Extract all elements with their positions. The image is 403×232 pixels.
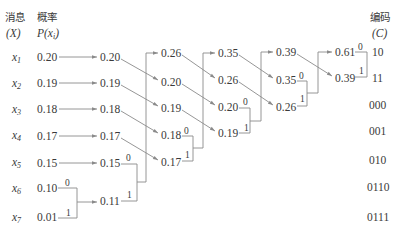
- branch-label-1: 1: [66, 208, 71, 218]
- prob-value: 0.35: [218, 47, 238, 59]
- code-value: 010: [369, 154, 387, 166]
- branch-label-0: 0: [65, 178, 70, 188]
- prob-value: 0.18: [100, 103, 120, 115]
- prob-value: 0.10: [37, 182, 57, 194]
- merge-arrow: [193, 53, 215, 148]
- prob-value: 0.20: [37, 51, 57, 63]
- merge-arrow: [137, 53, 158, 182]
- header-probability: 概率: [37, 11, 57, 23]
- merge-arrow: [307, 52, 332, 93]
- probability-column-1: 0.20 0.19 0.18 0.17 0.15 0.10 0.01: [37, 51, 57, 223]
- branch-label-1: 1: [185, 150, 190, 160]
- prob-value: 0.17: [37, 130, 57, 142]
- prob-value: 0.19: [37, 77, 57, 89]
- branch-label-1: 1: [359, 66, 364, 76]
- prob-value: 0.39: [276, 46, 296, 58]
- header-code: 编码: [370, 11, 390, 23]
- symbol-x7: x7: [11, 211, 22, 225]
- branch-label-1: 1: [127, 190, 132, 200]
- prob-value: 0.26: [218, 74, 238, 86]
- prob-value: 0.15: [37, 157, 57, 169]
- symbol-column: x1 x2 x3 x4 x5 x6 x7: [11, 51, 22, 225]
- symbol-x5: x5: [11, 156, 21, 170]
- arrow-line: [239, 55, 273, 78]
- arrow-line: [182, 55, 215, 78]
- prob-value: 0.19: [100, 77, 120, 89]
- header-message-var: (X): [6, 27, 21, 40]
- code-value: 0111: [367, 211, 389, 223]
- arrow-line: [121, 59, 158, 80]
- symbol-x1: x1: [11, 51, 21, 65]
- probability-column-6: 0.61 0.39: [335, 46, 355, 84]
- symbol-x2: x2: [11, 77, 21, 91]
- probability-column-4: 0.35 0.26 0.20 0.19: [218, 47, 238, 139]
- probability-column-3: 0.26 0.20 0.19 0.18 0.17: [161, 47, 181, 168]
- prob-value: 0.20: [161, 76, 181, 88]
- code-value: 001: [369, 125, 387, 137]
- code-value: 0110: [367, 181, 390, 193]
- prob-value: 0.19: [161, 102, 181, 114]
- branch-label-1: 1: [300, 94, 305, 104]
- probability-column-5: 0.39 0.35 0.26: [276, 46, 296, 113]
- code-value: 11: [372, 72, 383, 84]
- branch-label-0: 0: [126, 153, 131, 163]
- prob-value: 0.26: [276, 101, 296, 113]
- prob-value: 0.17: [100, 130, 120, 142]
- prob-value: 0.39: [335, 72, 355, 84]
- prob-value: 0.35: [276, 74, 296, 86]
- merge-arrow: [250, 52, 273, 121]
- branch-label-0: 0: [184, 126, 189, 136]
- code-value: 10: [372, 46, 384, 58]
- code-value: 000: [369, 99, 387, 111]
- huffman-coding-diagram: 消息 (X) 概率 P(xi) 编码 (C) x1 x2 x3 x4 x5 x6…: [0, 0, 403, 232]
- prob-value: 0.61: [335, 46, 355, 58]
- prob-value: 0.19: [218, 127, 238, 139]
- prob-value: 0.17: [161, 156, 181, 168]
- branch-label-0: 0: [243, 97, 248, 107]
- branch-label-1: 1: [244, 123, 249, 133]
- prob-value: 0.15: [100, 157, 120, 169]
- prob-value: 0.18: [37, 103, 57, 115]
- symbol-x6: x6: [11, 182, 21, 196]
- header-probability-var: P(xi): [36, 27, 59, 41]
- arrow-line: [182, 84, 215, 105]
- symbol-x3: x3: [11, 103, 21, 117]
- prob-value: 0.20: [100, 51, 120, 63]
- branch-label-0: 0: [299, 71, 304, 81]
- arrow-line: [121, 85, 158, 106]
- prob-value: 0.11: [100, 195, 120, 207]
- branch-label-0: 0: [358, 42, 363, 52]
- prob-value: 0.26: [161, 47, 181, 59]
- symbol-x4: x4: [11, 129, 21, 143]
- header-message: 消息: [5, 11, 25, 23]
- prob-value: 0.20: [218, 101, 238, 113]
- prob-value: 0.01: [37, 211, 57, 223]
- arrow-line: [121, 111, 158, 133]
- header-code-var: (C): [372, 27, 388, 40]
- code-column: 10 11 000 001 010 0110 0111: [367, 46, 390, 223]
- probability-column-2: 0.20 0.19 0.18 0.17 0.15 0.11: [100, 51, 120, 207]
- prob-value: 0.18: [161, 129, 181, 141]
